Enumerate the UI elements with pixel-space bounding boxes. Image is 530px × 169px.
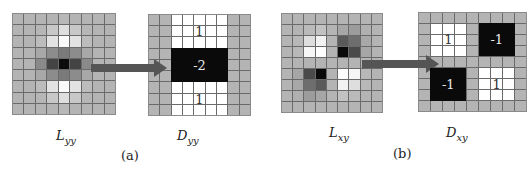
- grid-cell: [316, 36, 326, 46]
- grid-cell: [105, 93, 115, 103]
- grid-cell: [47, 93, 57, 103]
- grid-cell: [419, 13, 430, 23]
- grid-cell: [349, 25, 359, 35]
- grid-cell: [282, 14, 292, 24]
- grid-cell: [361, 47, 371, 57]
- grid-cell: [282, 47, 292, 57]
- grid-cell: [47, 36, 57, 46]
- grid-cell: [228, 26, 238, 36]
- grid-cell: [327, 91, 337, 101]
- grid-cell: [149, 82, 159, 92]
- grid-cell: [479, 13, 490, 23]
- grid-cell: [24, 36, 34, 46]
- grid-cell: [59, 93, 69, 103]
- grid-cell: [160, 49, 170, 59]
- grid-cell: [372, 25, 382, 35]
- lyy-label-subscript: yy: [65, 135, 76, 146]
- grid-cell: [47, 25, 57, 35]
- dxy-label: Dxy: [446, 125, 468, 143]
- grid-cell: [24, 93, 34, 103]
- grid-cell: [467, 101, 478, 111]
- region-weight-value: -2: [193, 58, 206, 73]
- grid-cell: [467, 57, 478, 67]
- grid-cell: [24, 59, 34, 69]
- region-weight-value: 1: [195, 92, 203, 107]
- region-weight-value: 1: [444, 32, 452, 47]
- grid-cell: [349, 47, 359, 57]
- grid-cell: [59, 14, 69, 24]
- grid-cell: [443, 101, 454, 111]
- grid-cell: [59, 81, 69, 91]
- grid-cell: [316, 80, 326, 90]
- grid-cell: [93, 25, 103, 35]
- grid-cell: [361, 80, 371, 90]
- grid-cell: [316, 25, 326, 35]
- grid-cell: [24, 104, 34, 114]
- grid-cell: [503, 13, 514, 23]
- grid-cell: [82, 81, 92, 91]
- grid-cell: [93, 93, 103, 103]
- grid-cell: [327, 58, 337, 68]
- grid-cell: [361, 25, 371, 35]
- arrow-a-icon: [91, 64, 155, 72]
- grid-cell: [105, 14, 115, 24]
- grid-cell: [82, 104, 92, 114]
- dyy-label: Dyy: [177, 128, 199, 146]
- grid-cell: [149, 37, 159, 47]
- grid-cell: [479, 101, 490, 111]
- grid-cell: [13, 25, 23, 35]
- dxy-label-subscript: xy: [456, 132, 467, 143]
- grid-cell: [479, 57, 490, 67]
- grid-cell: [293, 36, 303, 46]
- grid-cell: [160, 94, 170, 104]
- grid-cell: [47, 104, 57, 114]
- grid-cell: [24, 25, 34, 35]
- grid-cell: [36, 93, 46, 103]
- grid-cell: [349, 36, 359, 46]
- grid-cell: [338, 58, 348, 68]
- grid-cell: [361, 14, 371, 24]
- lxy-label-subscript: xy: [338, 132, 349, 143]
- grid-cell: [515, 57, 526, 67]
- grid-cell: [228, 60, 238, 70]
- grid-cell: [304, 25, 314, 35]
- grid-cell: [13, 14, 23, 24]
- grid-cell: [105, 25, 115, 35]
- grid-cell: [491, 13, 502, 23]
- grid-cell: [82, 48, 92, 58]
- caption-b: (b): [393, 146, 411, 161]
- grid-cell: [515, 24, 526, 34]
- grid-cell: [82, 25, 92, 35]
- grid-cell: [515, 68, 526, 78]
- grid-cell: [467, 13, 478, 23]
- grid-cell: [316, 47, 326, 57]
- grid-cell: [372, 14, 382, 24]
- grid-cell: [59, 70, 69, 80]
- grid-cell: [93, 104, 103, 114]
- grid-cell: [455, 13, 466, 23]
- grid-cell: [338, 102, 348, 112]
- grid-cell: [349, 14, 359, 24]
- grid-cell: [47, 81, 57, 91]
- grid-cell: [24, 81, 34, 91]
- grid-cell: [240, 94, 250, 104]
- grid-cell: [316, 58, 326, 68]
- grid-cell: [361, 91, 371, 101]
- grid-cell: [36, 59, 46, 69]
- box-filter-region-positive: 1: [171, 14, 228, 48]
- grid-cell: [304, 102, 314, 112]
- grid-cell: [515, 35, 526, 45]
- grid-cell: [455, 57, 466, 67]
- grid-cell: [149, 105, 159, 115]
- grid-cell: [515, 46, 526, 56]
- grid-cell: [36, 70, 46, 80]
- grid-cell: [293, 69, 303, 79]
- grid-cell: [467, 79, 478, 89]
- grid-cell: [59, 36, 69, 46]
- grid-cell: [59, 59, 69, 69]
- lyy-label: Lyy: [56, 128, 76, 146]
- grid-cell: [293, 47, 303, 57]
- grid-cell: [240, 105, 250, 115]
- grid-cell: [316, 69, 326, 79]
- grid-cell: [82, 36, 92, 46]
